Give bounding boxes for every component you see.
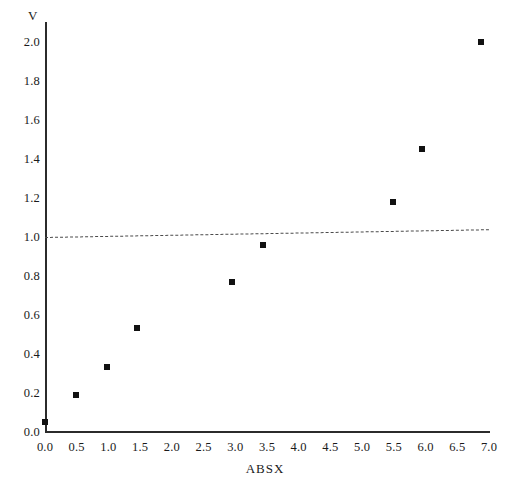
y-tick-label: 0.6 — [0, 309, 40, 321]
x-axis-title-text: ABSX — [246, 461, 285, 476]
data-point — [478, 39, 484, 45]
y-tick-label: 1.4 — [0, 153, 40, 165]
y-tick-label: 1.0 — [0, 231, 40, 243]
x-axis-title: ABSX — [0, 461, 510, 477]
x-tick-label: 7.0 — [469, 441, 509, 454]
x-tick-major — [0, 141, 1, 149]
data-point — [104, 364, 110, 370]
x-tick-major — [0, 93, 1, 101]
y-tick-label: 0.2 — [0, 387, 40, 399]
y-tick-label: 1.6 — [0, 114, 40, 126]
x-tick-major — [0, 165, 1, 173]
x-tick-major — [0, 101, 1, 109]
x-tick-major — [0, 173, 1, 181]
data-point — [390, 199, 396, 205]
y-tick-label: 0.4 — [0, 348, 40, 360]
y-tick-label: 0.8 — [0, 270, 40, 282]
y-tick-label: 1.8 — [0, 75, 40, 87]
data-point — [419, 146, 425, 152]
data-point — [260, 242, 266, 248]
tick-layer — [0, 0, 510, 433]
data-point — [42, 419, 48, 425]
y-axis-line — [45, 22, 47, 432]
scatter-plot: V ABSX 0.00.20.40.60.81.01.21.41.61.82.0… — [0, 0, 510, 491]
y-tick-label: 0.0 — [0, 426, 40, 438]
y-tick-label: 2.0 — [0, 36, 40, 48]
x-tick-major — [0, 61, 1, 69]
y-tick-label: 1.2 — [0, 192, 40, 204]
x-tick-major — [0, 133, 1, 141]
x-axis-line — [45, 431, 490, 433]
y-axis-title: V — [28, 8, 38, 24]
data-point — [73, 392, 79, 398]
data-point — [134, 325, 140, 331]
data-point — [229, 279, 235, 285]
